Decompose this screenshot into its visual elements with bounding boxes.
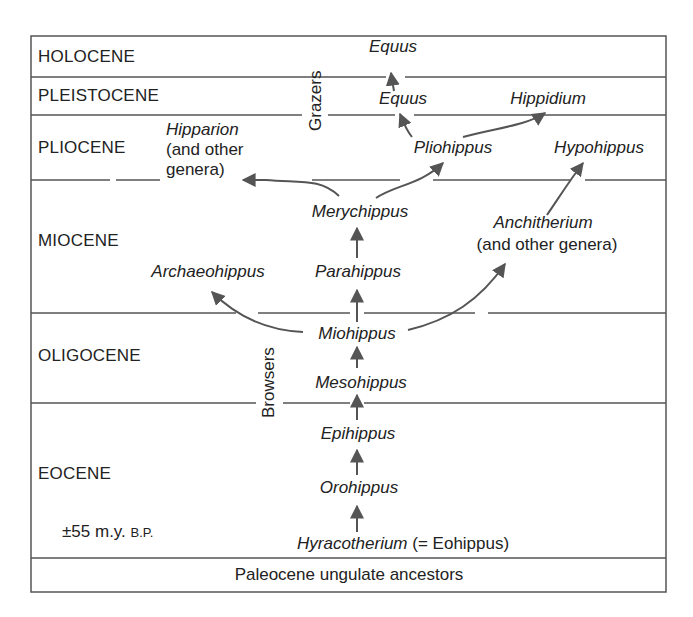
arrow-pliohippus-equus [400, 114, 412, 137]
eohippus-note: (= Eohippus) [412, 534, 509, 553]
grazers-label: Grazers [306, 71, 326, 131]
genus-equus-pleistocene: Equus [379, 89, 427, 109]
genus-hyracotherium-row: Hyracotherium (= Eohippus) [297, 534, 509, 554]
genus-epihippus: Epihippus [321, 424, 396, 444]
genus-mesohippus: Mesohippus [315, 373, 407, 393]
genus-pliohippus: Pliohippus [414, 138, 492, 158]
browsers-label: Browsers [259, 347, 279, 418]
arrow-miohippus-archaeohippus [212, 292, 303, 332]
hipparion-note-line3: genera) [166, 160, 225, 180]
lineage-arrows [212, 73, 583, 532]
genus-hipparion: Hipparion [166, 120, 239, 140]
epoch-holocene: HOLOCENE [38, 47, 135, 67]
genus-hypohippus: Hypohippus [554, 138, 644, 158]
genus-hippidium: Hippidium [510, 89, 586, 109]
epoch-pliocene: PLIOCENE [38, 138, 126, 158]
arrow-anchitherium-hypohippus [547, 163, 583, 215]
plus-minus-sign: ± [62, 522, 71, 541]
arrow-miohippus-anchitherium [408, 264, 505, 330]
epoch-miocene: MIOCENE [38, 231, 119, 251]
epoch-oligocene: OLIGOCENE [38, 346, 141, 366]
genus-archaeohippus: Archaeohippus [151, 262, 264, 282]
base-ancestors-label: Paleocene ungulate ancestors [235, 565, 464, 585]
arrow-merychippus-hipparion [243, 180, 339, 196]
genus-parahippus: Parahippus [315, 262, 401, 282]
genus-orohippus: Orohippus [320, 478, 398, 498]
genus-merychippus: Merychippus [312, 202, 408, 222]
genus-hyracotherium: Hyracotherium [297, 534, 408, 553]
genus-equus-holocene: Equus [369, 37, 417, 57]
anchitherium-note: (and other genera) [477, 235, 618, 255]
epoch-eocene: EOCENE [38, 464, 111, 484]
genus-miohippus: Miohippus [318, 324, 396, 344]
genus-anchitherium: Anchitherium [493, 213, 592, 233]
age-value: 55 m.y. [71, 522, 125, 541]
epoch-pleistocene: PLEISTOCENE [38, 86, 159, 106]
age-suffix: B.P. [131, 525, 154, 540]
hipparion-note-line2: (and other [166, 140, 244, 160]
arrow-pliohippus-hippidium [463, 113, 545, 137]
diagram-frame [31, 36, 666, 592]
age-note: ±55 m.y. B.P. [62, 522, 153, 543]
